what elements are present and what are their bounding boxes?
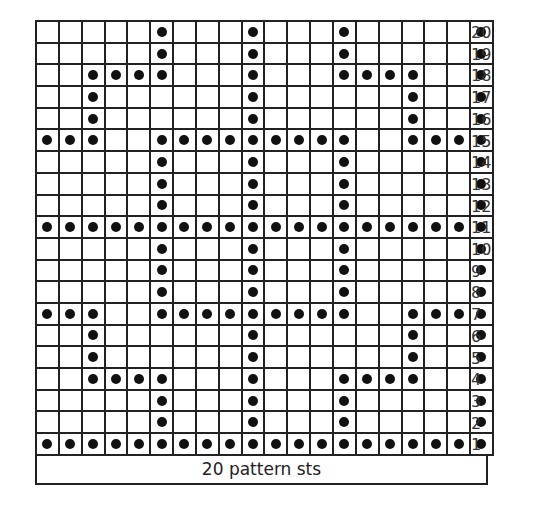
chart-cell [380, 196, 403, 218]
chart-cell [288, 347, 311, 369]
chart-cell [83, 22, 106, 44]
chart-cell [83, 261, 106, 283]
chart-cell [265, 152, 288, 174]
purl-dot-icon [248, 374, 258, 384]
chart-cell [380, 369, 403, 391]
chart-cell [220, 347, 243, 369]
purl-dot-icon [134, 70, 144, 80]
chart-cell [357, 44, 380, 66]
chart-cell [83, 369, 106, 391]
chart-cell [151, 87, 174, 109]
chart-cell [174, 217, 197, 239]
chart-cell [60, 434, 83, 456]
purl-dot-icon [88, 309, 98, 319]
chart-cell [220, 65, 243, 87]
chart-cell [334, 434, 357, 456]
chart-cell [311, 87, 334, 109]
chart-cell [425, 22, 448, 44]
purl-dot-icon [134, 222, 144, 232]
chart-cell [288, 326, 311, 348]
chart-cell [334, 369, 357, 391]
chart-cell [128, 44, 151, 66]
chart-cell [151, 22, 174, 44]
chart-cell [334, 282, 357, 304]
chart-cell [265, 304, 288, 326]
row-label: 1 [471, 434, 481, 456]
purl-dot-icon [88, 92, 98, 102]
chart-cell [106, 434, 129, 456]
purl-dot-icon [431, 309, 441, 319]
purl-dot-icon [248, 265, 258, 275]
chart-cell [311, 261, 334, 283]
chart-cell [403, 391, 426, 413]
chart-cell [425, 130, 448, 152]
purl-dot-icon [408, 70, 418, 80]
chart-cell [197, 326, 220, 348]
chart-cell [288, 44, 311, 66]
chart-cell [403, 217, 426, 239]
chart-cell [334, 109, 357, 131]
purl-dot-icon [88, 374, 98, 384]
purl-dot-icon [134, 439, 144, 449]
purl-dot-icon [225, 309, 235, 319]
chart-cell [151, 369, 174, 391]
chart-cell [380, 304, 403, 326]
chart-cell [83, 152, 106, 174]
chart-cell [106, 174, 129, 196]
chart-cell [265, 391, 288, 413]
chart-cell [174, 239, 197, 261]
chart-cell [37, 412, 60, 434]
purl-dot-icon [179, 439, 189, 449]
chart-cell [448, 434, 471, 456]
chart-cell [128, 152, 151, 174]
chart-cell [425, 347, 448, 369]
purl-dot-icon [65, 135, 75, 145]
chart-cell [265, 347, 288, 369]
purl-dot-icon [88, 352, 98, 362]
chart-cell [448, 282, 471, 304]
chart-cell [357, 304, 380, 326]
chart-cell [288, 282, 311, 304]
chart-cell [37, 391, 60, 413]
purl-dot-icon [339, 374, 349, 384]
purl-dot-icon [157, 309, 167, 319]
purl-dot-icon [248, 244, 258, 254]
chart-cell [357, 239, 380, 261]
chart-cell [174, 196, 197, 218]
chart-cell [380, 152, 403, 174]
chart-cell [448, 174, 471, 196]
purl-dot-icon [339, 244, 349, 254]
chart-cell [60, 109, 83, 131]
chart-cell [128, 239, 151, 261]
purl-dot-icon [339, 417, 349, 427]
row-label: 11 [471, 217, 491, 239]
chart-cell [151, 196, 174, 218]
chart-cell [243, 87, 266, 109]
purl-dot-icon [362, 70, 372, 80]
purl-dot-icon [294, 439, 304, 449]
chart-cell [37, 65, 60, 87]
chart-cell [37, 130, 60, 152]
chart-cell [243, 174, 266, 196]
chart-cell [265, 174, 288, 196]
chart-cell [151, 239, 174, 261]
chart-cell [425, 412, 448, 434]
chart-cell [334, 261, 357, 283]
chart-cell [425, 434, 448, 456]
chart-cell [220, 130, 243, 152]
purl-dot-icon [385, 439, 395, 449]
purl-dot-icon [111, 439, 121, 449]
chart-cell [60, 22, 83, 44]
purl-dot-icon [202, 222, 212, 232]
chart-cell [83, 196, 106, 218]
chart-cell [106, 196, 129, 218]
chart-cell [334, 217, 357, 239]
chart-cell [243, 130, 266, 152]
purl-dot-icon [202, 135, 212, 145]
row-label: 10 [471, 239, 491, 261]
chart-cell [106, 347, 129, 369]
purl-dot-icon [339, 27, 349, 37]
chart-cell [288, 22, 311, 44]
purl-dot-icon [157, 374, 167, 384]
purl-dot-icon [248, 309, 258, 319]
